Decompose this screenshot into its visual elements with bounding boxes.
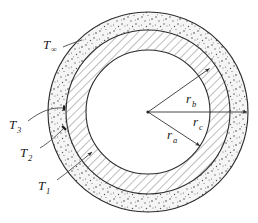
label-rc-sub: c — [199, 122, 203, 132]
label-t1-sub: 1 — [46, 186, 50, 196]
label-t1-base: T — [38, 178, 46, 193]
label-rb-sub: b — [192, 99, 196, 109]
label-t3-base: T — [9, 117, 17, 132]
label-t-infinity-sub: ∞ — [51, 45, 57, 54]
label-t3-sub: 3 — [16, 125, 21, 135]
figure-root: T ∞ T 3 T 2 T 1 r b r c r — [0, 0, 258, 223]
label-t2-base: T — [20, 145, 28, 160]
label-ra-sub: a — [173, 135, 177, 145]
label-t-infinity-base: T — [43, 37, 51, 52]
cylinder-cross-section-diagram: T ∞ T 3 T 2 T 1 r b r c r — [0, 0, 258, 223]
